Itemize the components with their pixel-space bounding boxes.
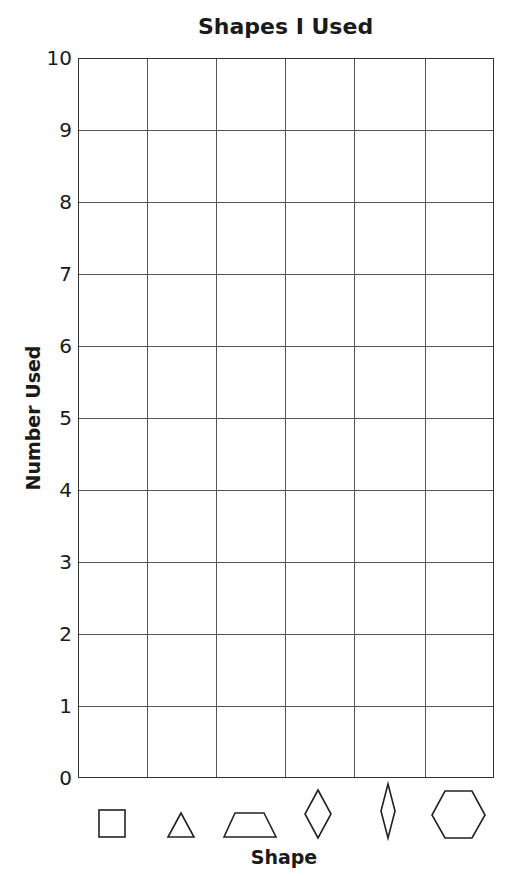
y-tick: 10 (30, 46, 72, 70)
triangle-icon (168, 813, 194, 837)
gridline-6 (79, 346, 493, 347)
trapezoid-icon (224, 813, 276, 837)
thin-rhombus-icon (381, 784, 395, 838)
column-divider (354, 59, 355, 777)
square-icon (99, 810, 125, 837)
y-tick: 3 (30, 550, 72, 574)
gridline-9 (79, 130, 493, 131)
gridline-3 (79, 562, 493, 563)
y-tick: 5 (30, 406, 72, 430)
y-tick: 8 (30, 190, 72, 214)
chart-grid (78, 58, 494, 778)
y-tick: 1 (30, 694, 72, 718)
rhombus-icon (305, 790, 331, 838)
y-tick: 7 (30, 262, 72, 286)
gridline-7 (79, 274, 493, 275)
gridline-1 (79, 706, 493, 707)
y-tick: 2 (30, 622, 72, 646)
y-tick: 9 (30, 118, 72, 142)
y-tick: 4 (30, 478, 72, 502)
x-axis-shape-icons (0, 780, 511, 842)
column-divider (425, 59, 426, 777)
gridline-4 (79, 490, 493, 491)
gridline-5 (79, 418, 493, 419)
chart-title: Shapes I Used (0, 14, 511, 39)
x-axis-label: Shape (251, 846, 318, 868)
gridline-8 (79, 202, 493, 203)
column-divider (216, 59, 217, 777)
y-tick: 6 (30, 334, 72, 358)
gridline-2 (79, 634, 493, 635)
hexagon-icon (432, 791, 485, 838)
column-divider (285, 59, 286, 777)
column-divider (147, 59, 148, 777)
